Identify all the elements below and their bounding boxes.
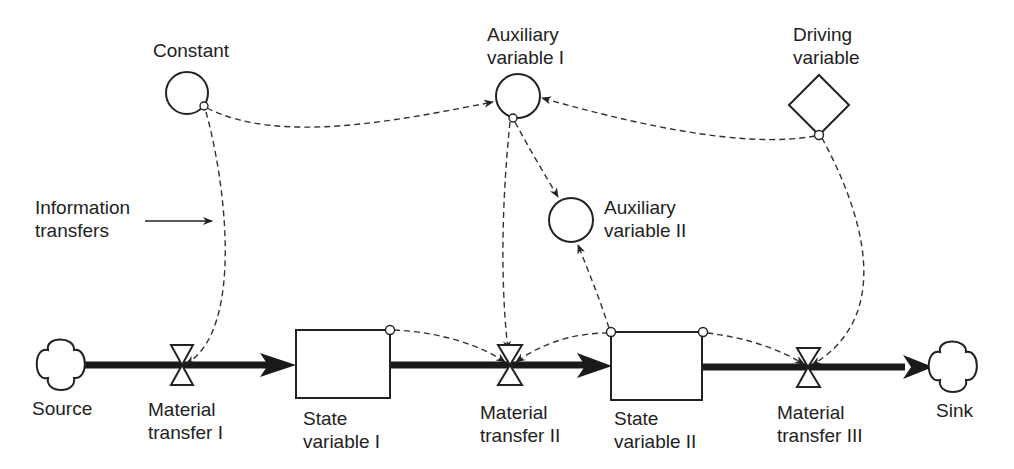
driving-label-line1: Driving [793, 23, 852, 46]
annotation-label-line1: Information [35, 196, 130, 219]
state-variable-1-node[interactable] [296, 330, 390, 398]
aux1-label-line1: Auxiliary [487, 23, 559, 46]
auxiliary-variable-2-node[interactable] [549, 198, 593, 242]
connector-tap-icon [509, 114, 517, 122]
source-cloud-icon[interactable] [37, 340, 85, 391]
connector-tap-icon [386, 326, 395, 335]
aux2-label-line1: Auxiliary [604, 196, 676, 219]
material-flow-2 [390, 353, 612, 378]
valve1-label-line2: transfer I [148, 421, 223, 444]
material-flow-3 [702, 355, 933, 379]
sink-label: Sink [936, 399, 973, 422]
info-link-state1-to-valve2 [394, 330, 505, 362]
valve2-label-line1: Material [480, 401, 548, 424]
info-link-state2-to-valve3 [707, 333, 804, 364]
info-link-driving-to-valve3 [812, 138, 864, 365]
info-link-driving-to-aux1 [542, 98, 815, 140]
connector-tap-icon [200, 102, 208, 110]
info-link-state2-to-aux2 [578, 245, 609, 328]
sink-cloud-icon[interactable] [929, 342, 977, 393]
connector-tap-icon [699, 328, 708, 337]
state2-label-line2: variable II [614, 430, 696, 453]
info-link-constant-to-valve1 [186, 112, 225, 364]
constant-label: Constant [153, 39, 229, 62]
aux1-label-line2: variable I [487, 46, 564, 69]
source-label: Source [32, 397, 92, 420]
valve2-label-line2: transfer II [480, 424, 560, 447]
stock-flow-diagram: Constant Auxiliary variable I Auxiliary … [0, 0, 1014, 469]
driving-label-line2: variable [793, 46, 860, 69]
state1-label-line1: State [303, 407, 347, 430]
state-variable-2-node[interactable] [611, 332, 702, 400]
valve1-label-line1: Material [148, 398, 216, 421]
annotation-label-line2: transfers [35, 219, 109, 242]
info-link-constant-to-aux1 [207, 102, 493, 127]
auxiliary-variable-1-node[interactable] [496, 74, 540, 118]
driving-variable-node[interactable] [789, 75, 849, 135]
info-link-aux1-to-aux2 [515, 122, 558, 197]
connector-tap-icon [815, 131, 824, 140]
info-link-aux1-to-valve2 [503, 122, 510, 350]
info-link-state2-to-valve2 [516, 333, 608, 362]
state2-label-line1: State [614, 407, 658, 430]
aux2-label-line2: variable II [604, 219, 686, 242]
connector-tap-icon [607, 328, 616, 337]
state1-label-line2: variable I [303, 430, 380, 453]
valve3-label-line2: transfer III [777, 424, 863, 447]
material-flow-1 [82, 353, 296, 377]
valve3-label-line1: Material [777, 401, 845, 424]
